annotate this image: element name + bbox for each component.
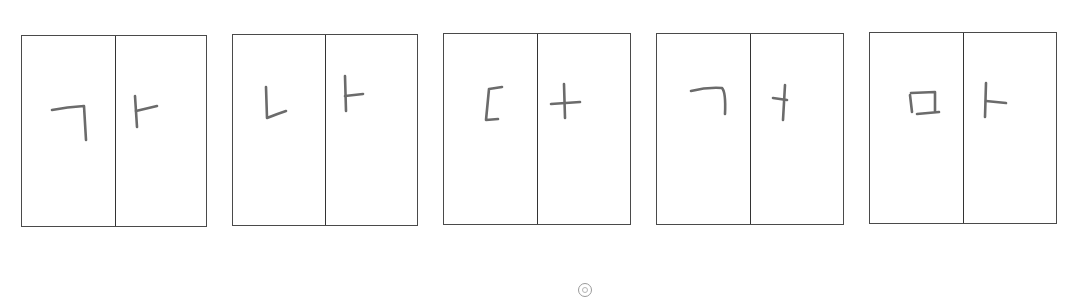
handwritten-giyeok-icon (22, 36, 115, 226)
handwritten-eo-vowel-icon (538, 34, 632, 224)
consonant-cell: ㄷ (444, 34, 537, 224)
handwritten-nieun-icon (233, 35, 325, 225)
handwritten-a-vowel-icon (116, 36, 208, 226)
syllable-card-3: ㄷ ㅓ (443, 33, 631, 225)
syllable-card-5: ㅁ ㅏ (869, 32, 1057, 224)
consonant-cell: ㅁ (870, 33, 963, 223)
vowel-cell: ㅏ (963, 33, 1056, 223)
handwritten-a-vowel-icon (964, 33, 1058, 223)
syllable-card-1: ㄱ ㅏ (21, 35, 207, 227)
handwritten-mieum-icon (870, 33, 963, 223)
vowel-cell: ㅏ (115, 36, 206, 226)
handwritten-giyeok-icon (657, 34, 750, 224)
consonant-cell: ㄱ (657, 34, 750, 224)
vowel-cell: ㅓ (750, 34, 843, 224)
vowel-cell: ㅓ (537, 34, 630, 224)
handwritten-eo-vowel-icon (751, 34, 845, 224)
circle-marker-icon (578, 283, 592, 297)
vowel-cell: ㅏ (325, 35, 417, 225)
handwritten-a-vowel-icon (326, 35, 419, 225)
syllable-card-4: ㄱ ㅓ (656, 33, 844, 225)
handwritten-digeut-icon (444, 34, 537, 224)
syllable-card-2: ㄴ ㅏ (232, 34, 418, 226)
consonant-cell: ㄴ (233, 35, 325, 225)
consonant-cell: ㄱ (22, 36, 115, 226)
